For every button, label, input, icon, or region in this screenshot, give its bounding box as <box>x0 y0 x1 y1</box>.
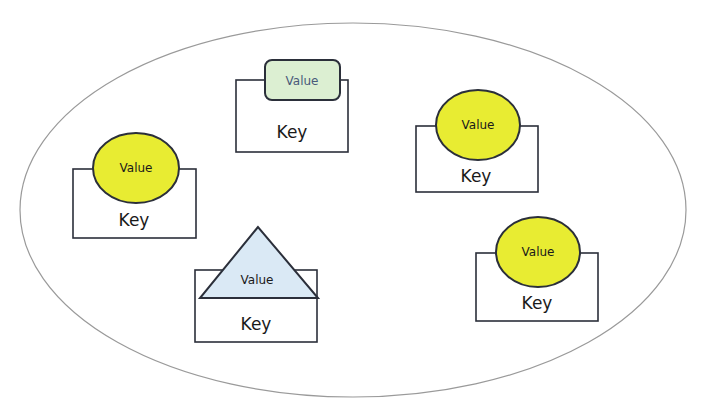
key-label: Key <box>461 166 492 186</box>
value-label: Value <box>462 118 495 132</box>
key-label: Key <box>522 293 553 313</box>
value-label: Value <box>522 245 555 259</box>
node-triangle: Value Key <box>195 227 318 342</box>
key-label: Key <box>241 314 272 334</box>
key-label: Key <box>119 210 150 230</box>
value-triangle <box>200 227 318 298</box>
node-circle-right-bottom: Value Key <box>476 217 598 321</box>
value-label: Value <box>120 161 153 175</box>
node-rounded-rect: Value Key <box>236 60 348 152</box>
value-label: Value <box>241 273 274 287</box>
value-label: Value <box>286 74 319 88</box>
node-circle-right-top: Value Key <box>416 90 538 192</box>
node-circle-left: Value Key <box>73 133 196 238</box>
key-value-diagram: Value Key Value Key Value Key Value Key … <box>0 0 704 408</box>
key-label: Key <box>277 122 308 142</box>
